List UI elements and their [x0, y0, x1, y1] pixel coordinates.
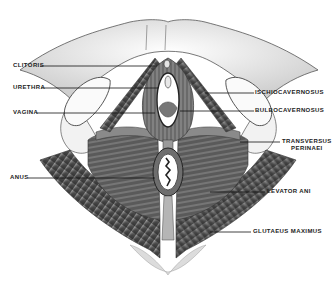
- label-glutaeus-maximus: GLUTAEUS MAXIMUS: [253, 228, 322, 235]
- anus: [153, 148, 183, 196]
- label-transversus-line1: TRANSVERSUS: [282, 138, 332, 145]
- coccyx: [162, 196, 174, 240]
- label-levator-ani: LEVATOR ANI: [267, 188, 311, 195]
- clitoris: [164, 60, 170, 68]
- label-vagina: VAGINA: [13, 109, 38, 116]
- label-transversus-line2: PERINAEI: [282, 145, 332, 152]
- label-urethra: URETHRA: [13, 84, 45, 91]
- sacral-soft-tissue: [130, 245, 206, 275]
- label-ischiocavernosus: ISCHIOCAVERNOSUS: [255, 89, 324, 96]
- label-anus: ANUS: [10, 174, 29, 181]
- label-clitoris: CLITORIS: [13, 62, 44, 69]
- label-bulbocavernosus: BULBOCAVERNOSUS: [255, 107, 324, 114]
- label-transversus-perinaei: TRANSVERSUS PERINAEI: [282, 138, 332, 152]
- vaginal-opening: [157, 73, 179, 127]
